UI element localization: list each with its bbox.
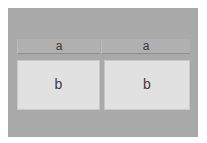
header-cell-right: a (101, 39, 190, 54)
diagram-panel: a a b b (8, 8, 198, 137)
body-box-left: b (17, 60, 100, 110)
body-box-right: b (104, 60, 190, 110)
header-cell-left: a (17, 39, 100, 54)
